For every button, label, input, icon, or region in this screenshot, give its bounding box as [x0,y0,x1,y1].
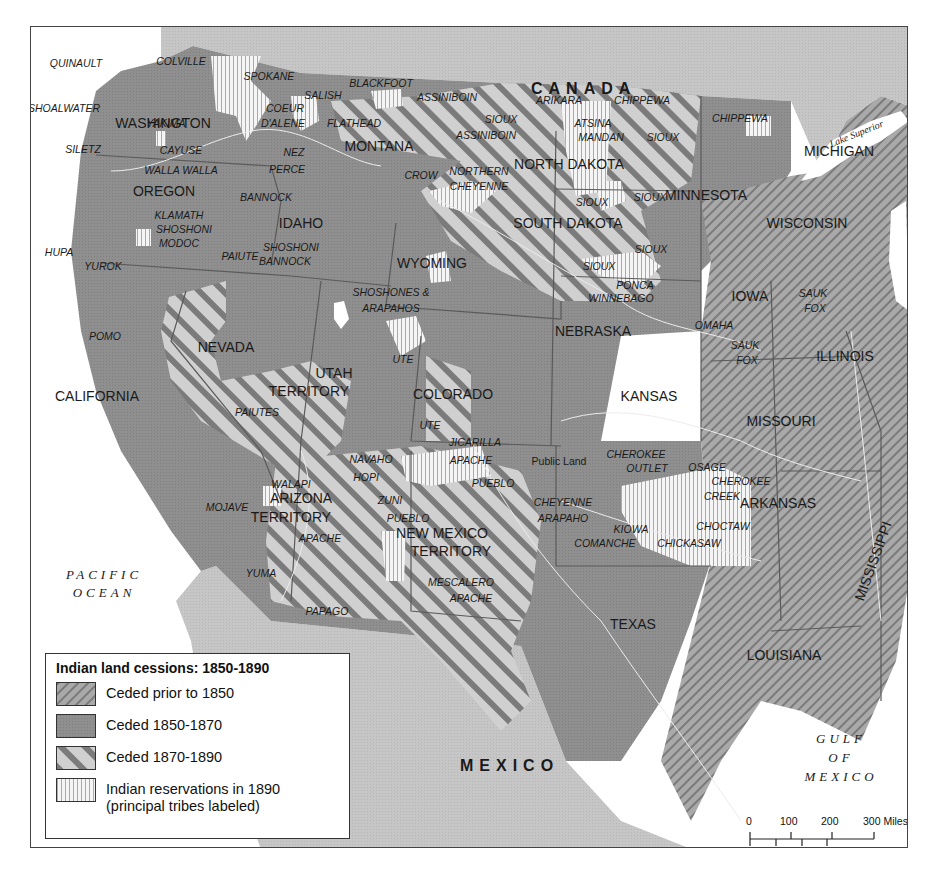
scale-miles-300: 300 Miles [863,815,908,827]
tribe-label-siletz: SILETZ [65,144,101,155]
tribe-label-quinault: QUINAULT [50,58,102,69]
tribe-label-arikara: ARIKARA [536,95,582,106]
tribe-label-shoshoni: SHOSHONI [156,224,212,235]
tribe-label-yuma: YUMA [246,568,276,579]
state-label-utah: UTAH [315,366,352,380]
legend-item-reservations: Indian reservations in 1890 (principal t… [56,778,339,818]
tribe-label-ute: UTE [393,354,414,365]
scale-miles-0: 0 [746,815,752,827]
tribe-label-pueblo: PUEBLO [472,478,515,489]
tribe-label-arapaho: ARAPAHO [538,513,589,524]
water-label-gulf: GULF OF MEXICO [791,732,891,783]
legend-label-line1: Indian reservations in 1890 [106,781,280,798]
state-label-wisconsin: WISCONSIN [767,216,848,230]
tribe-label-apache: APACHE [299,533,341,544]
tribe-label-papago: PAPAGO [306,606,349,617]
state-label-nebraska: NEBRASKA [555,324,631,338]
tribe-label-paiutes: PAIUTES [235,407,279,418]
tribe-label-salish: SALISH [304,90,341,101]
tribe-label-colville: COLVILLE [156,56,206,67]
tribe-label-ute: UTE [420,420,441,431]
legend: Indian land cessions: 1850-1890 Ceded pr… [45,653,350,839]
tribe-label-klamath: KLAMATH [155,210,204,221]
pacific-line1: PACIFIC [30,568,179,581]
tribe-label-sioux: SIOUX [647,132,680,143]
tribe-label-assiniboin: ASSINIBOIN [417,92,477,103]
tribe-label-chippewa: CHIPPEWA [712,113,768,124]
tribe-label-yakima: YAKIMA [146,118,185,129]
tribe-label-outlet: OUTLET [626,463,667,474]
swatch-1850-1870 [56,714,96,738]
tribe-label-modoc: MODOC [159,238,199,249]
tribe-label-navaho: NAVAHO [349,454,392,465]
state-label-montana: MONTANA [345,139,414,153]
tribe-label-hopi: HOPI [353,472,379,483]
tribe-label-creek: CREEK [704,491,740,502]
tribe-label-sioux: SIOUX [634,192,667,203]
tribe-label-ponca: PONCA [616,280,653,291]
gulf-line2: OF [791,751,891,764]
tribe-label-nez: NEZ [284,147,305,158]
tribe-label-crow: CROW [404,170,437,181]
tribe-label-sauk: SAUK [799,288,828,299]
state-label-minnesota: MINNESOTA [665,188,747,202]
tribe-label-public-land: Public Land [532,456,587,467]
tribe-label-cheyenne: CHEYENNE [450,181,508,192]
tribe-label-cherokee: CHEROKEE [712,476,771,487]
tribe-label-hupa: HUPA [45,247,73,258]
tribe-label-sioux: SIOUX [583,261,616,272]
tribe-label-fox: FOX [736,355,758,366]
tribe-label-perce: PERCE [269,164,305,175]
tribe-label-flathead: FLATHEAD [327,118,381,129]
swatch-prior-1850 [56,682,96,706]
state-label-missouri: MISSOURI [746,414,815,428]
swatch-reservations [56,778,96,802]
state-label-territory: TERRITORY [269,384,349,398]
state-label-territory: TERRITORY [411,544,491,558]
legend-item-1850-1870: Ceded 1850-1870 [56,714,339,746]
tribe-label-sauk: SAUK [731,340,760,351]
tribe-label-shoshones: SHOSHONES & [352,287,429,298]
scale-miles-200: 200 [821,815,839,827]
state-label-colorado: COLORADO [413,387,493,401]
pacific-line2: OCEAN [30,586,179,599]
state-label-louisiana: LOUISIANA [747,648,822,662]
scale-bar-graphic [749,829,899,848]
tribe-label-mandan: MANDAN [578,132,624,143]
tribe-label-apache: APACHE [450,593,492,604]
tribe-label-atsina: ATSINA [574,118,611,129]
tribe-label-pueblo: PUEBLO [387,513,430,524]
tribe-label-mojave: MOJAVE [206,502,249,513]
tribe-label-kiowa: KIOWA [614,524,649,535]
tribe-label-choctaw: CHOCTAW [696,521,749,532]
tribe-label-fox: FOX [804,303,826,314]
tribe-label-zuni: ZUNI [378,495,403,506]
tribe-label-omaha: OMAHA [695,320,734,331]
water-label-pacific: PACIFIC OCEAN [30,568,179,599]
tribe-label-mescalero: MESCALERO [428,577,494,588]
state-label-arkansas: ARKANSAS [740,496,816,510]
tribe-label-assiniboin: ASSINIBOIN [456,130,516,141]
tribe-label-chickasaw: CHICKASAW [657,538,720,549]
tribe-label-osage: OSAGE [688,462,725,473]
tribe-label-pomo: POMO [89,331,121,342]
legend-title: Indian land cessions: 1850-1890 [56,660,339,676]
legend-label: Ceded prior to 1850 [106,682,234,702]
tribe-label-comanche: COMANCHE [574,538,635,549]
tribe-label-yurok: YUROK [84,261,121,272]
tribe-label-chippewa: CHIPPEWA [614,95,670,106]
state-label-illinois: ILLINOIS [816,349,874,363]
state-label-iowa: IOWA [732,289,769,303]
scale-bar: 0 100 200 300 Miles 0 100 200 300 Kilome… [749,815,899,848]
tribe-label-shoalwater: SHOALWATER [30,103,100,114]
tribe-label-cayuse: CAYUSE [160,145,202,156]
state-label-nevada: NEVADA [198,340,255,354]
tribe-label-sioux: SIOUX [576,197,609,208]
tribe-label-bannock: BANNOCK [259,256,311,267]
state-label-territory: TERRITORY [251,510,331,524]
state-label-california: CALIFORNIA [55,389,139,403]
state-label-north-dakota: NORTH DAKOTA [514,157,624,171]
legend-label: Indian reservations in 1890 (principal t… [106,778,280,815]
tribe-label-blackfoot: BLACKFOOT [349,78,413,89]
state-label-oregon: OREGON [133,184,195,198]
